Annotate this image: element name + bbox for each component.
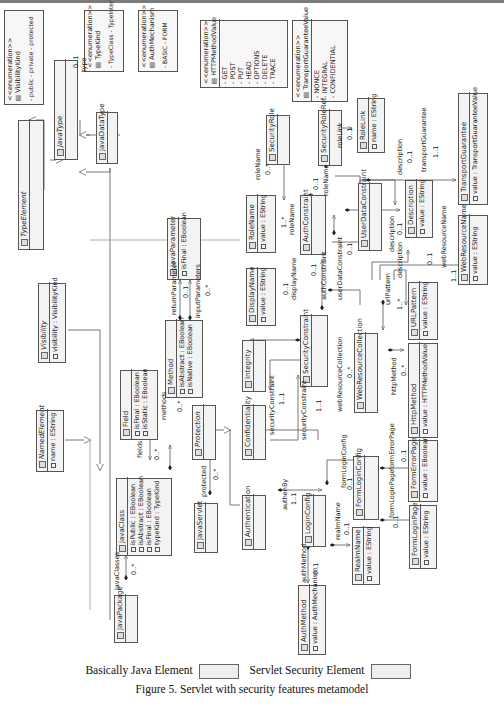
attribute: isFinal : EBoolean	[180, 212, 188, 269]
assoc-mult-javaclasses: 0..*	[130, 563, 138, 575]
assoc-mult-methods: 0..*	[176, 400, 184, 412]
assoc-mult-rolename-3: 0..1	[312, 178, 320, 190]
class-namedelement: NamedElementname : EString	[36, 410, 64, 472]
class-name: Authentication	[244, 486, 252, 537]
attribute-icon	[423, 331, 428, 336]
class-icon	[245, 449, 252, 456]
class-icon	[249, 315, 256, 322]
assoc-label-protected: protected	[200, 466, 208, 497]
assoc-label-formloginpage: formLoginPage	[388, 470, 396, 518]
attribute: isAbstract : EBoolean	[137, 476, 145, 545]
class-name: URLPattern	[410, 288, 418, 327]
assoc-mult-webresourcename: 1..1	[450, 270, 458, 282]
attribute-icon	[367, 576, 372, 581]
enum-authmechanism-literals: - BASIC - FORM	[160, 10, 178, 72]
class-loginconfig: LoginConfig	[302, 495, 326, 547]
assoc-label-authmethod: authMethod	[300, 544, 308, 583]
enum-icon: ▤	[94, 60, 102, 68]
attribute: value : EString	[259, 267, 267, 315]
assoc-label-rolename-3: roleName	[322, 165, 330, 197]
class-javatype: JavaType	[54, 60, 78, 160]
class-name: UserDataConstraint	[360, 169, 368, 238]
class-name: Protection	[194, 411, 202, 447]
legend-label-java: Basically Java Element	[85, 664, 192, 676]
attribute: value : EBoolean	[421, 436, 429, 491]
assoc-mult-rolelink: 0..1	[346, 128, 354, 140]
assoc-label-methods: methods	[160, 392, 168, 421]
enum-name: AuthMechanism	[148, 8, 156, 60]
assoc-mult-protected: 0..*	[212, 468, 220, 480]
attribute: isAbstract : EBoolean	[178, 318, 186, 387]
attribute-icon	[135, 431, 140, 436]
class-displayname: DisplayNamevalue : EString	[246, 268, 276, 326]
class-urlpattern: URLPatternvalue : EString	[408, 282, 438, 340]
class-rolelink: RoleLinkname : EString	[357, 98, 385, 153]
attribute: isNative : EBoolean	[186, 324, 194, 387]
attribute: value : HTTPMethodValue	[421, 344, 429, 427]
assoc-mult-authmethod: 0..1	[312, 563, 320, 575]
attribute-icon	[423, 429, 428, 434]
class-name: FormLoginPage	[411, 503, 419, 556]
enum-name: TransportGuaranteeValue	[302, 7, 310, 90]
enum-httpmethodvalue: <<enumeration>>▤ HTTPMethodValue - GET- …	[200, 20, 288, 88]
class-protection: Protection	[192, 405, 216, 460]
assoc-label-formerrorpage: formErrorPage	[388, 423, 396, 470]
attribute: isStatic : EBoolean	[141, 368, 149, 429]
class-name: JavaDataType	[98, 103, 106, 151]
class-authconstraint: AuthConstraint	[300, 195, 326, 255]
enum-icon: ▤	[302, 90, 310, 98]
class-icon	[168, 387, 175, 394]
assoc-mult-description-1: 0..1	[406, 151, 414, 163]
assoc-label-authconstraint: authConstraint	[320, 252, 328, 300]
class-name: WebResourceName	[460, 204, 468, 272]
class-icon	[245, 539, 252, 546]
class-name: Visibility	[40, 321, 48, 351]
class-icon	[249, 242, 256, 249]
literal-list: - GET- POST- PUT- HEAD- OPTIONS- DELETE-…	[220, 19, 278, 87]
class-name: NamedElement	[38, 405, 46, 459]
attribute-icon	[180, 389, 185, 394]
class-icon	[408, 227, 415, 234]
class-name: Confidentiality	[244, 396, 252, 447]
attribute-icon	[139, 547, 144, 552]
class-icon	[301, 644, 308, 651]
assoc-mult-fields: 0..*	[153, 448, 161, 460]
class-securityrole: SecurityRole	[266, 115, 290, 165]
class-icon	[117, 632, 124, 639]
assoc-label-webresourcename: webResourceName	[440, 206, 448, 268]
attribute-icon	[51, 463, 56, 468]
assoc-mult-formerrorpage: 0..1	[400, 450, 408, 462]
attribute-icon	[313, 646, 318, 651]
enum-icon: ▤	[148, 60, 156, 68]
attribute-icon	[372, 144, 377, 149]
attribute-icon	[188, 389, 193, 394]
class-name: LoginConfig	[304, 493, 312, 534]
attribute-icon	[261, 244, 266, 249]
class-icon	[197, 542, 204, 549]
attribute: value : EString	[365, 526, 373, 574]
class-name: FormErrorPage	[410, 437, 418, 489]
class-icon	[411, 329, 418, 336]
assoc-mult-description-2: 0..1	[396, 223, 404, 235]
class-icon	[41, 352, 48, 359]
assoc-label-returnparameter: returnParameter	[170, 261, 178, 315]
class-name: DisplayName	[248, 267, 256, 313]
attribute: isFinal : EBoolean	[145, 488, 153, 545]
attribute-icon	[423, 493, 428, 498]
assoc-mult-httpmethod: 0..*	[400, 364, 408, 376]
assoc-label-httpmethod: httpMethod	[390, 357, 398, 395]
assoc-label-transportguarantee: transportGuarantee	[420, 108, 428, 173]
class-name: JavaPackage	[116, 586, 124, 630]
stereotype: <<enumeration>>	[294, 35, 302, 98]
attribute: value : EString	[259, 194, 267, 242]
assoc-mult-authenby: 1..1	[290, 493, 298, 505]
literal-list: - NONCE- INTEGRAL- CONFIDENTIAL	[312, 19, 338, 101]
class-icon	[461, 274, 468, 281]
class-name: RoleLink	[359, 111, 367, 140]
legend-swatch-servlet	[371, 664, 411, 679]
assoc-label-userdataconstraint: userDataConstraint	[336, 237, 344, 300]
class-icon	[411, 491, 418, 498]
class-icon	[360, 142, 367, 149]
class-typeelement: TypeElement	[18, 120, 44, 250]
class-icon	[361, 240, 368, 247]
